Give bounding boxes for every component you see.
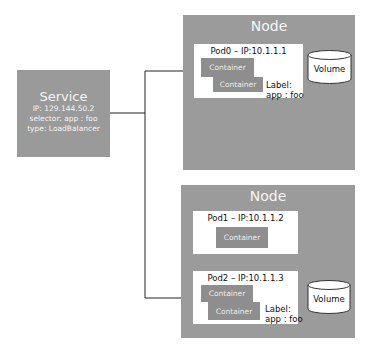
volume-label: Volume [307, 294, 351, 304]
pod-label: Label: app : foo [265, 304, 303, 324]
label-key: Label: [266, 80, 304, 90]
volume: Volume [307, 280, 351, 314]
pod-title: Pod2 – IP:10.1.1.3 [193, 273, 298, 283]
pod-title: Pod1 – IP:10.1.1.2 [193, 213, 298, 223]
service-selector: selector: app : foo [17, 114, 110, 124]
volume-label: Volume [307, 64, 352, 74]
label-key: Label: [265, 304, 303, 314]
container-box: Container [213, 77, 263, 92]
container-box: Container [208, 302, 260, 320]
service-title: Service [17, 89, 110, 104]
service-box: Service IP: 129.144.50.2 selector: app :… [17, 70, 110, 157]
volume: Volume [307, 50, 352, 84]
node-title: Node [183, 18, 355, 34]
pod-label: Label: app : foo [266, 80, 304, 100]
label-value: app : foo [266, 90, 304, 100]
pod-title: Pod0 – IP:10.1.1.1 [194, 46, 303, 56]
service-ip: IP: 129.144.50.2 [17, 104, 110, 114]
container-box: Container [201, 58, 254, 77]
service-type: type: LoadBalancer [17, 124, 110, 134]
container-box: Container [201, 285, 253, 302]
label-value: app : foo [265, 314, 303, 324]
node-title: Node [181, 188, 355, 204]
container-box: Container [216, 227, 268, 248]
